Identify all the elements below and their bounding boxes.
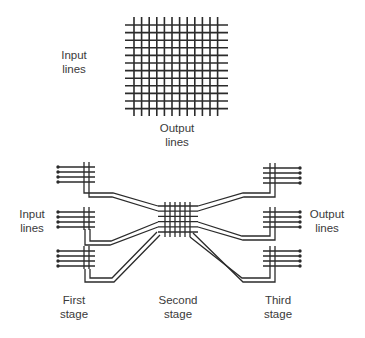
multistage-network: [56, 162, 301, 282]
multistage-output-label: Output lines: [305, 207, 349, 235]
third-stage-label: Third stage: [256, 293, 300, 321]
switching-diagram: [0, 0, 365, 338]
crossbar-grid: [125, 17, 228, 116]
first-stage-label: First stage: [52, 293, 96, 321]
second-stage-label: Second stage: [152, 293, 204, 321]
multistage-input-label: Input lines: [14, 207, 50, 235]
crossbar-output-label: Output lines: [155, 121, 199, 149]
crossbar-input-label: Input lines: [56, 48, 92, 76]
